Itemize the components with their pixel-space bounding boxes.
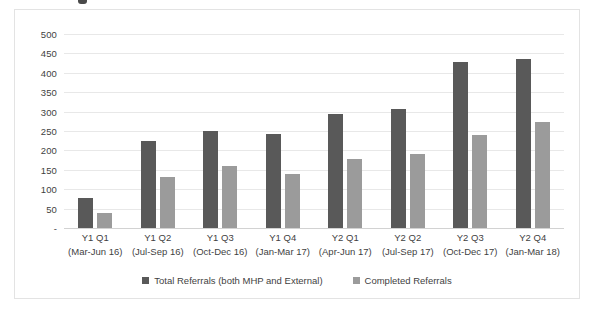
bars-layer — [64, 34, 564, 228]
x-axis-category-label: Y2 Q2(Jul-Sep 17) — [377, 231, 440, 259]
x-axis-period: Y1 Q4 — [252, 231, 315, 245]
x-axis-period: Y1 Q3 — [189, 231, 252, 245]
x-axis-date-range: (Mar-Jun 16) — [64, 245, 127, 259]
y-axis-tick-label: 250 — [41, 126, 57, 137]
bar-completed-referrals[interactable] — [97, 213, 112, 228]
legend-swatch-icon — [142, 277, 149, 284]
x-axis-date-range: (Jan-Mar 17) — [252, 245, 315, 259]
bar-group — [439, 34, 502, 228]
x-axis-date-range: (Jul-Sep 17) — [377, 245, 440, 259]
bar-total-referrals[interactable] — [453, 62, 468, 228]
legend-label: Completed Referrals — [365, 275, 452, 286]
y-axis-tick-label: 400 — [41, 67, 57, 78]
bar-total-referrals[interactable] — [328, 114, 343, 228]
bar-completed-referrals[interactable] — [410, 154, 425, 228]
x-axis-category-label: Y2 Q1(Apr-Jun 17) — [314, 231, 377, 259]
x-axis-category-label: Y1 Q2(Jul-Sep 16) — [127, 231, 190, 259]
x-axis-period: Y2 Q4 — [502, 231, 565, 245]
y-axis-tick-label: - — [54, 223, 57, 234]
chart-legend: Total Referrals (both MHP and External)C… — [15, 275, 579, 286]
x-axis-date-range: (Oct-Dec 16) — [189, 245, 252, 259]
x-axis-category-label: Y1 Q1(Mar-Jun 16) — [64, 231, 127, 259]
bar-completed-referrals[interactable] — [285, 174, 300, 228]
bar-total-referrals[interactable] — [203, 131, 218, 228]
y-axis-tick-label: 500 — [41, 29, 57, 40]
bar-total-referrals[interactable] — [141, 141, 156, 228]
x-axis-date-range: (Jan-Mar 18) — [502, 245, 565, 259]
bar-group — [377, 34, 440, 228]
bar-group — [127, 34, 190, 228]
y-axis-tick-label: 100 — [41, 184, 57, 195]
cropped-text-artifact — [78, 0, 87, 4]
bar-group — [502, 34, 565, 228]
x-axis-category-label: Y2 Q4(Jan-Mar 18) — [502, 231, 565, 259]
x-axis-period: Y2 Q1 — [314, 231, 377, 245]
bar-completed-referrals[interactable] — [347, 159, 362, 228]
x-axis-date-range: (Oct-Dec 17) — [439, 245, 502, 259]
bar-total-referrals[interactable] — [516, 59, 531, 228]
x-axis-period: Y2 Q3 — [439, 231, 502, 245]
x-axis-category-label: Y1 Q4(Jan-Mar 17) — [252, 231, 315, 259]
x-axis-date-range: (Jul-Sep 16) — [127, 245, 190, 259]
bar-group — [64, 34, 127, 228]
bar-completed-referrals[interactable] — [160, 177, 175, 228]
chart-container: -50100150200250300350400450500 Y1 Q1(Mar… — [14, 9, 580, 299]
bar-completed-referrals[interactable] — [472, 135, 487, 228]
bar-group — [314, 34, 377, 228]
bar-total-referrals[interactable] — [266, 134, 281, 228]
x-axis-category-label: Y2 Q3(Oct-Dec 17) — [439, 231, 502, 259]
bar-group — [252, 34, 315, 228]
legend-item[interactable]: Completed Referrals — [353, 275, 452, 286]
legend-label: Total Referrals (both MHP and External) — [154, 275, 322, 286]
x-axis-period: Y1 Q2 — [127, 231, 190, 245]
x-axis-period: Y2 Q2 — [377, 231, 440, 245]
bar-completed-referrals[interactable] — [535, 122, 550, 228]
legend-item[interactable]: Total Referrals (both MHP and External) — [142, 275, 322, 286]
bar-completed-referrals[interactable] — [222, 166, 237, 228]
bar-group — [189, 34, 252, 228]
legend-swatch-icon — [353, 277, 360, 284]
x-axis-date-range: (Apr-Jun 17) — [314, 245, 377, 259]
y-axis-tick-label: 300 — [41, 106, 57, 117]
x-axis-period: Y1 Q1 — [64, 231, 127, 245]
y-axis-tick-label: 450 — [41, 48, 57, 59]
bar-total-referrals[interactable] — [78, 198, 93, 228]
y-axis-tick-label: 50 — [46, 203, 57, 214]
y-axis-tick-label: 200 — [41, 145, 57, 156]
y-axis-tick-label: 150 — [41, 164, 57, 175]
y-axis-tick-label: 350 — [41, 87, 57, 98]
plot-area: -50100150200250300350400450500 — [64, 34, 564, 228]
bar-total-referrals[interactable] — [391, 109, 406, 228]
x-axis-labels: Y1 Q1(Mar-Jun 16)Y1 Q2(Jul-Sep 16)Y1 Q3(… — [64, 231, 564, 259]
x-axis-category-label: Y1 Q3(Oct-Dec 16) — [189, 231, 252, 259]
gridline — [64, 228, 564, 229]
